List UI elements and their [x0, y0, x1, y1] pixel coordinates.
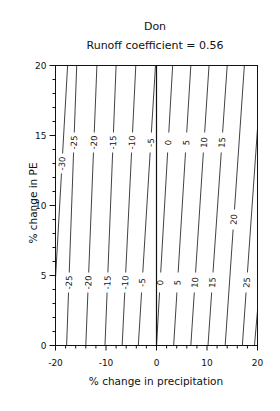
contour-label: 5 [181, 139, 191, 145]
x-axis-label: % change in precipitation [55, 375, 257, 387]
y-tick-label: 0 [41, 341, 47, 351]
y-tick-label: 15 [35, 131, 46, 141]
contour-label: 10 [199, 137, 210, 148]
contour-line [126, 152, 132, 272]
axis-ticks [50, 66, 258, 351]
contour-line [161, 152, 168, 272]
contour-line [174, 292, 177, 345]
contour-line [67, 292, 69, 345]
contour-line [169, 66, 173, 133]
contour-line [113, 66, 116, 133]
contour-line [56, 173, 62, 278]
contour-line [94, 66, 97, 133]
contour-line [234, 66, 244, 210]
contour-line [63, 66, 68, 154]
x-tick-label: 0 [154, 358, 160, 368]
contour-line [205, 66, 209, 133]
contour-label: -20 [83, 275, 94, 289]
contour-label: -10 [120, 275, 131, 289]
contour-label: 25 [241, 277, 252, 288]
contour-label: 10 [190, 277, 201, 288]
contour-label: -15 [108, 135, 119, 149]
contour-labels: -30-25-25-20-20-15-15-10-10-5-5005510101… [57, 135, 252, 289]
contour-label: -20 [89, 135, 100, 149]
contour-line [223, 66, 228, 133]
contour-label: 5 [172, 279, 182, 285]
contour-line [225, 229, 233, 345]
contour-label: -5 [146, 138, 157, 147]
contour-label: -5 [137, 278, 148, 287]
y-tick-label: 20 [35, 61, 47, 71]
y-axis-label: % change in PE [27, 148, 39, 258]
contour-line [69, 152, 73, 272]
contour-plot: -20-100102005101520 -30-25-25-20-20-15-1… [0, 0, 280, 411]
contour-line [191, 292, 194, 345]
contour-line [151, 66, 155, 133]
contour-line [143, 152, 150, 272]
contour-line [74, 66, 76, 133]
contour-line [247, 129, 257, 273]
y-tick-label: 5 [41, 271, 47, 281]
contour-label: -30 [57, 156, 68, 170]
contour-line [196, 152, 204, 272]
contour-line [208, 292, 212, 345]
x-tick-label: -10 [99, 358, 114, 368]
contour-label: -25 [64, 275, 74, 289]
contour-label: -15 [102, 275, 113, 289]
contour-line [213, 152, 221, 272]
contour-label: 15 [217, 137, 228, 148]
contour-label: 15 [207, 277, 218, 288]
contour-line [86, 292, 88, 345]
x-tick-label: 20 [252, 358, 264, 368]
contour-line [89, 152, 94, 272]
contour-line [178, 152, 185, 272]
contour-label: 0 [163, 140, 173, 146]
contour-label: 20 [228, 214, 239, 225]
contour-line [242, 292, 246, 345]
contour-line [108, 152, 113, 272]
x-tick-label: 10 [201, 358, 213, 368]
contour-label: -10 [127, 135, 138, 149]
contour-line [122, 292, 125, 345]
contour-label: -25 [69, 135, 79, 149]
contour-line [138, 292, 141, 345]
contour-line [105, 292, 107, 345]
contour-line [133, 66, 136, 133]
x-tick-label: -20 [48, 358, 63, 368]
contour-line [187, 66, 191, 133]
